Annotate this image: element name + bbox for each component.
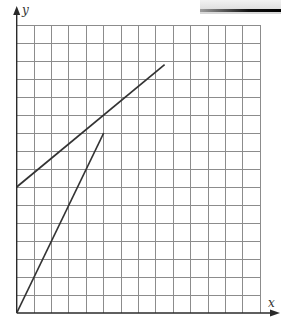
- grid: [17, 25, 261, 313]
- axes: y x: [13, 3, 280, 317]
- y-axis-arrow-icon: [13, 6, 20, 15]
- x-axis-label: x: [268, 296, 275, 310]
- x-axis-arrow-icon: [270, 310, 280, 317]
- y-axis-label: y: [21, 3, 29, 17]
- series-lines: [17, 65, 165, 313]
- line-chart: y x: [0, 0, 281, 324]
